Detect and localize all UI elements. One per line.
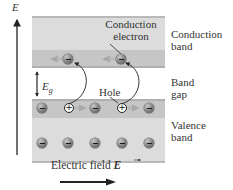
excitation-arc-left-icon [68,63,86,104]
hole-2: + [117,103,127,113]
conduction-band-label-line2: band [171,40,222,52]
conduction-band-label-line1: Conduction [171,28,222,40]
valence-electron-top-3 [144,103,154,113]
valence-band-label-line2: band [171,131,206,143]
band-gap-label-line2: gap [171,88,194,100]
valence-electron-top-2 [90,103,100,113]
valence-electron-bottom-2 [63,138,73,148]
valence-electron-top-1 [37,103,47,113]
valence-band-label-line1: Valence [171,119,206,131]
energy-gap-label: Eg [42,80,53,97]
hole-1: + [64,103,74,113]
energy-gap-symbol: E [42,80,49,92]
electric-field-text: Electric field [51,159,111,171]
band-gap-label-line1: Band [171,76,194,88]
electric-field-arrow-icon [60,179,116,186]
energy-gap-subscript: g [49,86,53,95]
excitation-arc-right-icon [121,63,139,104]
electron-drift-arrow-left-1-icon [50,56,62,63]
electric-field-symbol: E [114,159,122,171]
electron-drift-arrow-left-2-icon [102,56,114,63]
valence-electron-bottom-3 [90,138,100,148]
valence-electron-bottom-4 [117,138,127,148]
hole-drift-arrow-right-2-icon [128,105,140,112]
conduction-band-label: Conduction band [171,28,222,52]
electric-field-label: Electric field E [51,159,121,171]
hole-label: Hole [99,86,120,98]
valence-electron-bottom-1 [37,138,47,148]
conduction-electron-2 [116,54,126,64]
conduction-electron-label-line1: Conduction [96,18,166,30]
vector-arrow-icon [134,159,141,161]
valence-electron-bottom-5 [144,138,154,148]
band-gap-label: Band gap [171,76,194,100]
valence-band-label: Valence band [171,119,206,143]
conduction-electron-label: Conduction electron [96,18,166,42]
conduction-electron-label-line2: electron [96,30,166,42]
conduction-electron-1 [63,54,73,64]
hole-drift-arrow-right-1-icon [75,105,87,112]
